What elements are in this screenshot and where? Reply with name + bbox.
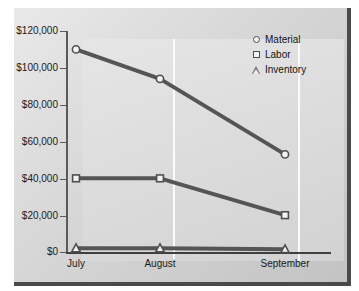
y-tick-mark [60,68,67,69]
legend-item-material[interactable]: Material [252,33,306,46]
legend-item-inventory[interactable]: Inventory [252,63,306,76]
legend-label: Labor [265,49,291,60]
y-tick-mark [60,216,67,217]
y-tick-label: $40,000 [0,174,58,184]
triangle-marker-icon [252,65,261,74]
gridline-august [173,39,175,261]
y-tick-label: $0 [0,247,58,257]
square-marker-icon [252,50,261,59]
legend-label: Material [265,34,301,45]
y-axis-tick-labels: $120,000 $100,000 $80,000 $60,000 $40,00… [0,0,58,291]
y-tick-label: $120,000 [0,26,58,36]
x-tick-label-september: September [261,258,310,269]
x-tick-label-july: July [67,258,85,269]
y-tick-mark [60,142,67,143]
y-tick-mark [60,252,67,253]
y-tick-label: $20,000 [0,211,58,221]
chart-legend: Material Labor Inventory [252,33,306,76]
circle-marker-icon [252,35,261,44]
y-tick-mark [60,31,67,32]
y-tick-label: $60,000 [0,137,58,147]
y-tick-mark [60,105,67,106]
y-tick-label: $100,000 [0,63,58,73]
legend-label: Inventory [265,64,306,75]
x-axis [66,252,331,254]
y-tick-label: $80,000 [0,100,58,110]
x-tick-label-august: August [144,258,175,269]
legend-item-labor[interactable]: Labor [252,48,306,61]
line-chart: $120,000 $100,000 $80,000 $60,000 $40,00… [0,0,359,291]
y-tick-mark [60,179,67,180]
